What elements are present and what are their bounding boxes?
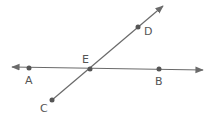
label-e: E <box>82 53 89 66</box>
point-b <box>157 67 162 72</box>
label-b: B <box>155 75 163 88</box>
label-d: D <box>144 25 152 38</box>
point-d <box>136 25 141 30</box>
line-cd <box>52 6 163 100</box>
label-c: C <box>40 102 48 115</box>
point-a <box>27 66 32 71</box>
line-ab <box>12 67 203 70</box>
label-a: A <box>25 74 33 87</box>
point-e <box>88 67 93 72</box>
geometry-diagram: A E B C D <box>0 0 210 121</box>
point-c <box>50 98 55 103</box>
